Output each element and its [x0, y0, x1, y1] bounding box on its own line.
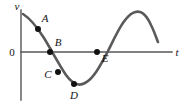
point-marker-c: [55, 69, 61, 75]
point-label-e: E: [101, 52, 109, 64]
diagram-canvas: v t 0 A B C D E: [0, 0, 186, 109]
point-label-d: D: [69, 89, 78, 101]
point-marker-a: [35, 26, 41, 32]
point-label-a: A: [41, 12, 49, 24]
v-axis-label: v: [15, 0, 20, 12]
point-label-b: B: [55, 36, 62, 48]
origin-label: 0: [9, 46, 15, 58]
point-label-c: C: [44, 68, 52, 80]
t-axis-label: t: [175, 46, 179, 58]
velocity-time-diagram: v t 0 A B C D E: [0, 0, 186, 109]
point-marker-e: [94, 49, 100, 55]
point-marker-d: [71, 81, 77, 87]
point-marker-b: [47, 49, 53, 55]
